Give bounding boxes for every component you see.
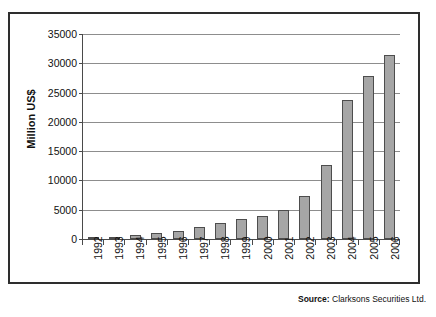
x-label-slot-1999: 1999 <box>230 246 251 286</box>
bar-2001[interactable] <box>278 210 289 239</box>
y-tick-label-5000: 5000 <box>54 204 77 215</box>
x-tick-label-1992: 1992 <box>93 236 104 259</box>
x-tick-mark-2000 <box>252 240 253 245</box>
bar-slot-1994 <box>125 34 146 239</box>
bar-slot-1995 <box>146 34 167 239</box>
x-tick-label-2002: 2002 <box>305 236 316 259</box>
bar-2003[interactable] <box>321 165 332 239</box>
bar-slot-2002 <box>294 34 315 239</box>
bar-slot-2003 <box>316 34 337 239</box>
x-label-slot-1997: 1997 <box>188 246 209 286</box>
x-tick-mark-1995 <box>146 240 147 245</box>
x-label-slot-2006: 2006 <box>379 246 400 286</box>
x-tick-label-2004: 2004 <box>347 236 358 259</box>
bar-slot-1997 <box>189 34 210 239</box>
x-tick-label-2001: 2001 <box>283 236 294 259</box>
x-label-slot-2002: 2002 <box>294 246 315 286</box>
x-label-slot-1992: 1992 <box>82 246 103 286</box>
x-tick-label-1999: 1999 <box>241 236 252 259</box>
y-tick-label-15000: 15000 <box>48 146 77 157</box>
bar-slot-1999 <box>231 34 252 239</box>
y-tick-label-35000: 35000 <box>48 29 77 40</box>
x-tick-label-1998: 1998 <box>220 236 231 259</box>
x-label-slot-1993: 1993 <box>103 246 124 286</box>
bar-slot-2004 <box>337 34 358 239</box>
y-tick-label-20000: 20000 <box>48 117 77 128</box>
x-label-slot-1995: 1995 <box>146 246 167 286</box>
x-label-slot-2003: 2003 <box>315 246 336 286</box>
x-label-slot-2001: 2001 <box>273 246 294 286</box>
y-tick-label-30000: 30000 <box>48 58 77 69</box>
bar-slot-1996 <box>168 34 189 239</box>
bar-2006[interactable] <box>384 55 395 239</box>
chart-figure-frame: Million US$ 0500010000150002000025000300… <box>8 12 420 284</box>
x-tick-label-2006: 2006 <box>389 236 400 259</box>
bar-2004[interactable] <box>342 100 353 239</box>
chart-area: Million US$ 0500010000150002000025000300… <box>10 14 418 282</box>
x-label-slot-1998: 1998 <box>209 246 230 286</box>
x-label-slot-2004: 2004 <box>336 246 357 286</box>
bar-slot-1992 <box>83 34 104 239</box>
bar-slot-2001 <box>273 34 294 239</box>
x-tick-mark-2005 <box>358 240 359 245</box>
x-tick-label-1993: 1993 <box>114 236 125 259</box>
x-label-slot-1994: 1994 <box>124 246 145 286</box>
x-tick-label-1995: 1995 <box>156 236 167 259</box>
y-tick-label-25000: 25000 <box>48 87 77 98</box>
source-note: Source: Clarksons Securities Ltd. <box>298 295 426 304</box>
x-tick-label-2000: 2000 <box>262 236 273 259</box>
x-tick-label-1997: 1997 <box>199 236 210 259</box>
x-tick-label-1994: 1994 <box>135 236 146 259</box>
bar-2002[interactable] <box>299 196 310 239</box>
bar-slot-1993 <box>104 34 125 239</box>
y-tick-label-0: 0 <box>71 234 77 245</box>
plot-area: 05000100001500020000250003000035000 <box>82 34 400 240</box>
bar-slot-2000 <box>252 34 273 239</box>
x-tick-mark-1992 <box>82 240 83 245</box>
x-axis-labels: 1992199319941995199619971998199920002001… <box>82 246 400 286</box>
x-tick-label-2005: 2005 <box>368 236 379 259</box>
y-axis-title-text: Million US$ <box>25 89 37 148</box>
bar-slot-2005 <box>358 34 379 239</box>
source-label: Source: <box>298 294 330 304</box>
y-axis-title: Million US$ <box>22 14 40 224</box>
source-text: Clarksons Securities Ltd. <box>330 294 426 304</box>
x-tick-label-1996: 1996 <box>177 236 188 259</box>
x-label-slot-2005: 2005 <box>358 246 379 286</box>
bar-slot-2006 <box>379 34 400 239</box>
x-tick-label-2003: 2003 <box>326 236 337 259</box>
bar-2005[interactable] <box>363 76 374 239</box>
x-label-slot-1996: 1996 <box>167 246 188 286</box>
x-label-slot-2000: 2000 <box>252 246 273 286</box>
bars-group <box>83 34 400 239</box>
y-tick-label-10000: 10000 <box>48 175 77 186</box>
bar-slot-1998 <box>210 34 231 239</box>
